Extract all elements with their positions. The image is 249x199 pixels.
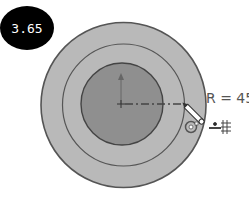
grid-snap-icon — [209, 120, 231, 134]
badge-value: 3.65 — [11, 21, 42, 36]
value-badge: 3.65 — [0, 6, 54, 50]
radius-dimension-label[interactable]: R = 45 — [206, 90, 249, 106]
